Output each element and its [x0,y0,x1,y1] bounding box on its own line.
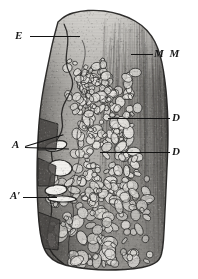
histology-figure: E M M D D A A′ [0,0,198,279]
label-duct-lower: D [172,146,180,157]
leader-line-duct-upper [108,118,170,119]
leader-line-muscularis-mucosae [131,54,153,55]
specimen-illustration [0,0,198,279]
label-alveolus-a: A [12,139,19,150]
label-duct-upper: D [172,112,180,123]
label-epithelium: E [15,30,22,41]
leader-line-alveolus-a-prime [23,197,57,198]
leader-line-epithelium [30,36,80,37]
label-muscularis-mucosae: M M [154,48,181,59]
label-alveolus-a-prime: A′ [10,190,20,201]
leader-line-duct-lower [100,152,170,153]
